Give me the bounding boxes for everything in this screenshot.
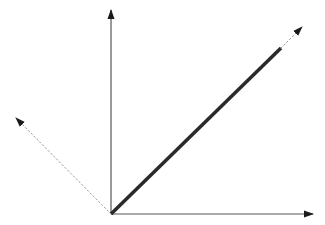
- diagram-layer: [16, 10, 313, 214]
- dotted-extension-vector: [281, 27, 302, 48]
- vector-diagram: [0, 0, 325, 225]
- diagram-canvas: [0, 0, 325, 225]
- thick-vector: [111, 48, 281, 214]
- dotted-left-vector: [16, 118, 111, 214]
